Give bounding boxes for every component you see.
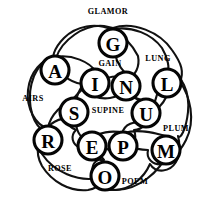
node-m[interactable]: M bbox=[152, 136, 180, 164]
node-n[interactable]: N bbox=[112, 72, 140, 100]
node-o[interactable]: O bbox=[91, 162, 119, 190]
node-l[interactable]: L bbox=[153, 69, 181, 97]
node-u-letter: U bbox=[139, 104, 153, 125]
node-r[interactable]: R bbox=[34, 126, 62, 154]
rosette-canvas: G A I N L S bbox=[0, 0, 216, 214]
node-n-letter: N bbox=[119, 77, 133, 98]
node-r-letter: R bbox=[41, 131, 55, 152]
node-s[interactable]: S bbox=[60, 98, 88, 126]
node-a[interactable]: A bbox=[41, 56, 69, 84]
node-i-letter: I bbox=[91, 74, 98, 95]
node-m-letter: M bbox=[157, 141, 175, 162]
word-label-supine: SUPINE bbox=[92, 106, 125, 115]
node-a-letter: A bbox=[48, 61, 62, 82]
word-label-gain: GAIN bbox=[98, 59, 121, 68]
word-label-lung: LUNG bbox=[145, 54, 171, 63]
node-g-letter: G bbox=[106, 34, 121, 55]
word-rosette-diagram: G A I N L S bbox=[0, 0, 216, 214]
word-label-glamor: GLAMOR bbox=[88, 7, 128, 16]
node-l-letter: L bbox=[161, 74, 174, 95]
word-label-rose: ROSE bbox=[48, 164, 72, 173]
node-o-letter: O bbox=[98, 167, 113, 188]
node-i[interactable]: I bbox=[81, 69, 109, 97]
node-e-letter: E bbox=[86, 137, 99, 158]
node-p[interactable]: P bbox=[109, 132, 137, 160]
node-s-letter: S bbox=[69, 103, 80, 124]
node-g[interactable]: G bbox=[99, 29, 127, 57]
word-label-airs: AIRS bbox=[22, 94, 43, 103]
node-u[interactable]: U bbox=[132, 99, 160, 127]
word-label-plum: PLUM bbox=[163, 124, 189, 133]
node-e[interactable]: E bbox=[78, 132, 106, 160]
word-label-poem: POEM bbox=[122, 177, 148, 186]
node-p-letter: P bbox=[117, 137, 129, 158]
